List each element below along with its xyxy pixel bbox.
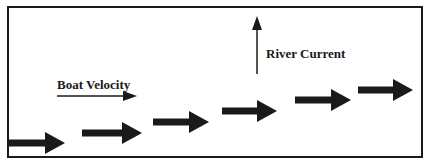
boat-path-arrow-icon: [358, 79, 413, 101]
boat-path-arrow-icon: [153, 111, 209, 133]
river-current-label: River Current: [266, 46, 345, 62]
boat-velocity-label: Boat Velocity: [57, 77, 130, 93]
boat-path-arrow-icon: [82, 122, 142, 144]
river-current-vector-icon: [252, 16, 262, 74]
boat-path-arrow-icon: [8, 132, 65, 154]
boat-path-arrow-icon: [295, 89, 351, 111]
boat-path-arrow-icon: [222, 100, 277, 122]
